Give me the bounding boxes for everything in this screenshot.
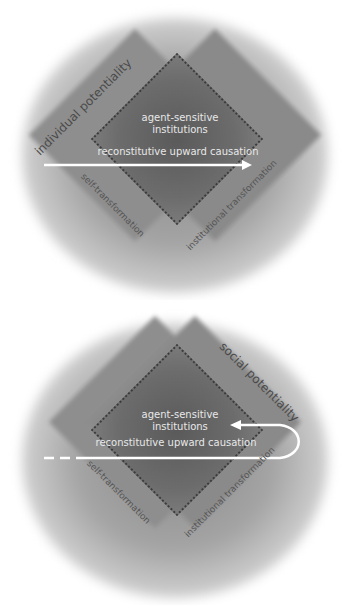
loop-arrow-icon <box>0 305 351 605</box>
top-diagram: individual potentiality agent-sensitive … <box>0 0 351 300</box>
upward-arrow-icon <box>0 0 351 300</box>
bottom-diagram: social potentiality agent-sensitive inst… <box>0 305 351 605</box>
